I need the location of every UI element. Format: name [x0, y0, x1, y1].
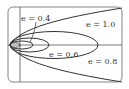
label-e-0-8: e = 0.8: [88, 57, 117, 66]
conic-diagram: e = 0.4 e = 1.0 e = 0.6 e = 0.8: [0, 0, 129, 89]
label-e-0-4: e = 0.4: [21, 14, 50, 23]
label-leader-e-0-4: [30, 22, 36, 42]
label-e-1-0: e = 1.0: [86, 20, 115, 29]
label-e-0-6: e = 0.6: [49, 50, 78, 59]
